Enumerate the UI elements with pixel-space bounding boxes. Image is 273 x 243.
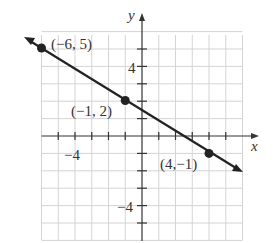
point-neg1-2 <box>121 96 130 105</box>
point-label-1: (−6, 5) <box>51 37 92 52</box>
coordinate-plane <box>0 0 273 243</box>
x-axis-label: x <box>251 139 258 154</box>
y-tick-label-neg4: −4 <box>117 200 133 215</box>
arrow-right-icon <box>232 164 243 172</box>
data-line <box>24 37 243 172</box>
x-tick-label-neg4: −4 <box>64 148 80 163</box>
y-axis-label: y <box>128 8 135 23</box>
point-label-3: (4,−1) <box>160 157 197 172</box>
y-tick-label-4: 4 <box>128 61 136 76</box>
point-label-2: (−1, 2) <box>71 104 112 119</box>
point-neg6-5 <box>37 44 46 53</box>
point-4-neg1 <box>205 149 214 158</box>
